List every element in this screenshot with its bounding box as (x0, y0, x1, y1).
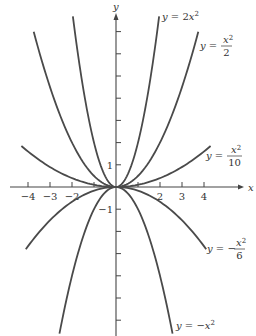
curve-labels: y = 2x2y = x22y = x210y = −x26y = −x2 (161, 10, 246, 331)
axes: x y (10, 1, 254, 336)
y-tick-label: 1 (107, 160, 113, 171)
parabola-family-chart: x y −4−3−22341−1 y = 2x2y = x22y = x210y… (0, 0, 256, 336)
equation-label-1: y = 2x2 (161, 10, 199, 22)
svg-text:2: 2 (223, 47, 229, 58)
svg-text:y = −: y = − (206, 243, 236, 254)
equation-label-5: y = −x2 (175, 319, 215, 331)
x-tick-label: 3 (179, 191, 185, 202)
ticks: −4−3−22341−1 (21, 32, 208, 321)
x-axis-label: x (248, 182, 254, 193)
svg-text:6: 6 (236, 250, 242, 261)
equation-label-3: y = x210 (205, 144, 242, 168)
svg-text:y =: y = (205, 150, 223, 161)
svg-text:x2: x2 (236, 237, 246, 248)
x-axis-arrow (238, 185, 244, 190)
svg-text:y =: y = (199, 40, 217, 51)
svg-text:y = 2x2: y = 2x2 (161, 10, 199, 22)
svg-text:x2: x2 (223, 34, 233, 45)
svg-text:y = −x2: y = −x2 (175, 319, 215, 331)
equation-label-4: y = −x26 (206, 237, 246, 261)
y-axis-label: y (112, 1, 119, 12)
x-tick-label: −4 (21, 191, 36, 202)
svg-text:10: 10 (228, 157, 241, 168)
x-tick-label: −2 (65, 191, 80, 202)
x-tick-label: 4 (201, 191, 207, 202)
y-tick-label: −1 (98, 204, 113, 215)
svg-text:x2: x2 (231, 144, 241, 155)
x-tick-label: −3 (43, 191, 58, 202)
equation-label-2: y = x22 (199, 34, 233, 58)
y-axis-arrow (114, 13, 119, 20)
